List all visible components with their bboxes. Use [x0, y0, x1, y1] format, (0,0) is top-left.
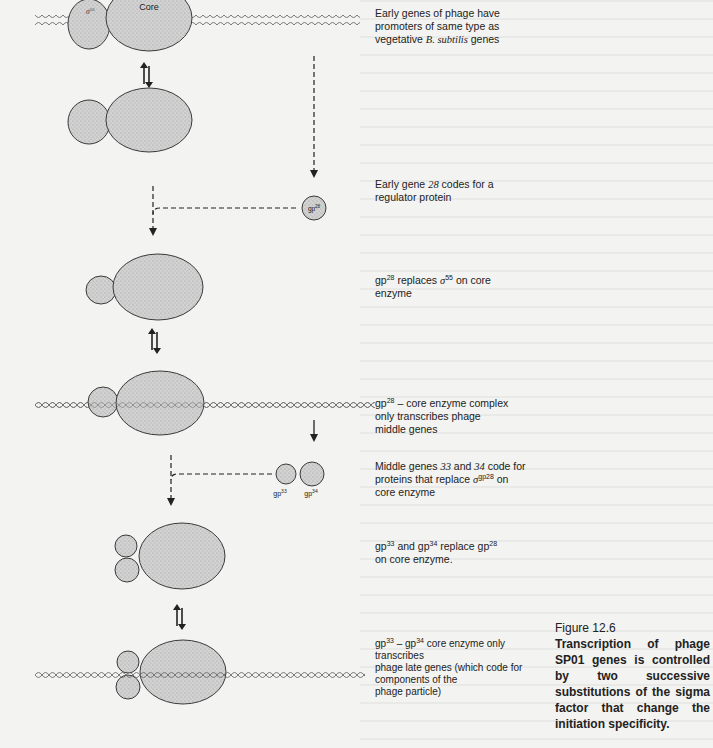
gp28-protein: gp28: [302, 196, 326, 220]
dashed-path-gp28-to-core: [153, 208, 296, 214]
annotation-gp28-core-complex: gp28 – core enzyme complex only transcri…: [375, 397, 508, 436]
annotation-gp28-replaces: gp28 replaces σ55 on core enzyme: [375, 274, 491, 300]
annotation-gp33-gp34-core: gp33 – gp34 core enzyme only transcribes…: [375, 638, 522, 698]
figure-caption-text: Transcription of phage SP01 genes is con…: [555, 637, 710, 731]
annotation-early-gene-28: Early gene 28 codes for a regulator prot…: [375, 178, 494, 204]
gp33-label: gp33: [273, 488, 287, 498]
free-core-with-gp28: [86, 254, 203, 320]
annotation-early-genes: Early genes of phage have promoters of s…: [375, 7, 500, 46]
equilibrium-arrows-icon: [140, 62, 153, 88]
equilibrium-arrows-icon: [148, 328, 161, 354]
dashed-path-gp33-gp34-to-core: [171, 474, 272, 480]
equilibrium-arrows-icon: [173, 604, 186, 630]
gp33-protein: [276, 464, 296, 484]
figure-number: Figure 12.6: [555, 620, 710, 636]
dna-strand-late: [35, 668, 365, 678]
free-core-with-sigma55: [68, 88, 192, 152]
free-core-with-gp33-gp34: [115, 523, 225, 589]
figure-caption: Figure 12.6 Transcription of phage SP01 …: [555, 620, 710, 732]
gp34-protein: [300, 462, 324, 486]
holoenzyme-sigma55: Core σ55: [68, 0, 192, 51]
core-label: Core: [139, 2, 159, 12]
gp34-label: gp34: [304, 488, 318, 498]
annotation-gp33-gp34-replace: gp33 and gp34 replace gp28 on core enzym…: [375, 540, 497, 566]
annotation-middle-genes: Middle genes 33 and 34 code for proteins…: [375, 460, 526, 499]
